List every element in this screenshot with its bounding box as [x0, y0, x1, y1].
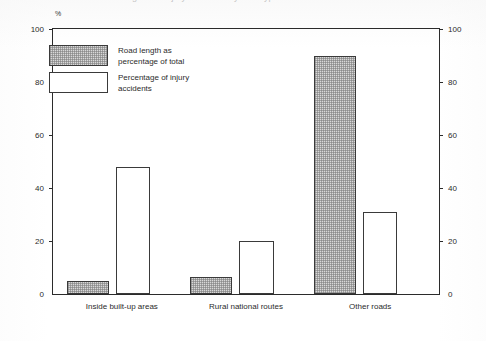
y-axis-label-left-40: 40 [35, 184, 44, 193]
legend-swatch-road-length [49, 45, 108, 66]
legend-label-road-length: Road length as percentage of total [118, 45, 184, 67]
y-axis-label-left-100: 100 [31, 25, 44, 34]
bar-group-rural-national-routes [188, 29, 304, 294]
bar-group-other-roads [312, 29, 428, 294]
x-axis-label-rural-national-routes: Rural national routes [209, 302, 283, 312]
bar-injury-accidents-rural-national-routes[interactable] [239, 241, 274, 294]
y-axis-label-right-100: 100 [448, 25, 461, 34]
legend-swatch-injury-accidents [49, 72, 108, 93]
bar-road-length-other-roads[interactable] [314, 56, 356, 295]
y-axis-label-left-80: 80 [35, 78, 44, 87]
bar-road-length-rural-national-routes[interactable] [190, 277, 232, 294]
tick-mark-right [439, 241, 443, 242]
bar-injury-accidents-inside-built-up-areas[interactable] [116, 167, 151, 294]
y-axis-label-left-60: 60 [35, 131, 44, 140]
y-axis-label-right-40: 40 [448, 184, 457, 193]
bar-chart: % 100 100 80 80 60 60 40 40 [0, 0, 486, 341]
tick-mark-right [439, 29, 443, 30]
plot-area: 100 100 80 80 60 60 40 40 20 20 0 [52, 28, 440, 295]
bar-road-length-inside-built-up-areas[interactable] [67, 281, 109, 294]
x-axis-label-other-roads: Other roads [349, 302, 391, 312]
y-axis-label-left-20: 20 [35, 237, 44, 246]
y-axis-label-right-60: 60 [448, 131, 457, 140]
legend-item-injury-accidents: Percentage of injury accidents [49, 72, 189, 94]
y-axis-label-right-0: 0 [448, 290, 452, 299]
x-axis-labels: Inside built-up areas Rural national rou… [52, 299, 440, 339]
bar-injury-accidents-other-roads[interactable] [363, 212, 398, 294]
tick-mark-right [439, 82, 443, 83]
y-axis-label-right-80: 80 [448, 78, 457, 87]
y-axis-label-left-0: 0 [40, 290, 44, 299]
tick-mark-right [439, 188, 443, 189]
legend-label-injury-accidents: Percentage of injury accidents [118, 72, 189, 94]
legend-item-road-length: Road length as percentage of total [49, 45, 189, 67]
y-axis-label-right-20: 20 [448, 237, 457, 246]
tick-mark-right [439, 135, 443, 136]
y-axis-unit-label: % [55, 10, 61, 17]
x-axis-label-inside-built-up-areas: Inside built-up areas [86, 302, 158, 312]
chart-legend: Road length as percentage of total Perce… [49, 45, 189, 99]
